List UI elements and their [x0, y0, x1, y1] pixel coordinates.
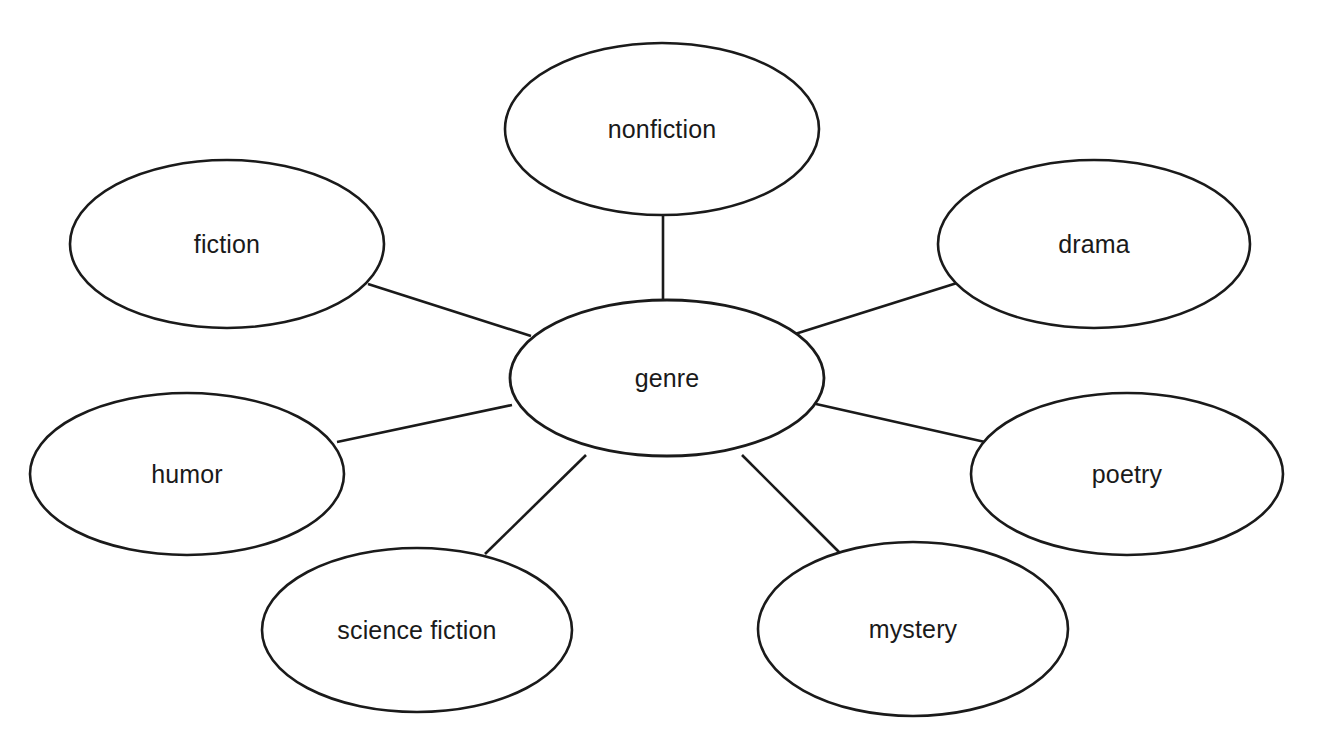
nonfiction-label: nonfiction	[608, 115, 717, 143]
edge-genre-science-fiction	[485, 455, 586, 554]
genre-label: genre	[635, 364, 700, 392]
node-fiction[interactable]: fiction	[70, 160, 384, 328]
science-fiction-label: science fiction	[337, 616, 496, 644]
node-drama[interactable]: drama	[938, 160, 1250, 328]
word-web-canvas: nonfiction drama poetry mystery science …	[0, 0, 1323, 750]
poetry-label: poetry	[1092, 460, 1163, 488]
humor-label: humor	[151, 460, 223, 488]
node-mystery[interactable]: mystery	[758, 542, 1068, 716]
drama-label: drama	[1058, 230, 1130, 258]
node-humor[interactable]: humor	[30, 393, 344, 555]
edge-genre-poetry	[816, 404, 985, 442]
fiction-label: fiction	[194, 230, 260, 258]
node-nonfiction[interactable]: nonfiction	[505, 43, 819, 215]
node-poetry[interactable]: poetry	[971, 393, 1283, 555]
mystery-label: mystery	[869, 615, 958, 643]
edge-genre-mystery	[742, 455, 841, 554]
node-genre-central[interactable]: genre	[510, 300, 824, 456]
edge-genre-drama	[795, 283, 957, 334]
edge-genre-humor	[337, 405, 512, 442]
genre-word-web-diagram: nonfiction drama poetry mystery science …	[0, 0, 1323, 750]
edge-genre-fiction	[368, 284, 531, 336]
node-science-fiction[interactable]: science fiction	[262, 548, 572, 712]
